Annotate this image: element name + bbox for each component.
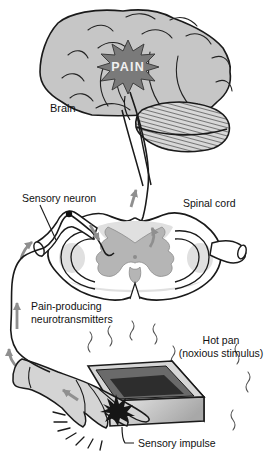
heat-wave-squiggle xyxy=(246,372,250,392)
cerebellum xyxy=(136,102,230,152)
central-canal xyxy=(133,255,137,259)
heat-wave-squiggle xyxy=(108,326,112,346)
dorsal-root-ganglion-dot xyxy=(66,211,72,217)
hot-pan-label-line1: Hot pan xyxy=(203,334,240,346)
hot-pan-label-line2: (noxious stimulus) xyxy=(179,347,264,359)
heat-wave-squiggle xyxy=(153,324,157,344)
brain-label: Brain xyxy=(50,102,76,114)
arrow-to-brain xyxy=(131,190,136,207)
sensory-neuron-label: Sensory neuron xyxy=(22,192,96,204)
spinal-cord-label: Spinal cord xyxy=(183,197,236,209)
pain-pathway-figure: PAIN Brain xyxy=(0,0,270,457)
spinal-cord-cross-section xyxy=(32,211,248,300)
neurotransmitters-label-line1: Pain-producing xyxy=(31,300,102,312)
neurotransmitters-label-line2: neurotransmitters xyxy=(31,313,113,325)
sensory-impulse-leader-line xyxy=(122,427,134,443)
heat-wave-squiggle xyxy=(231,410,235,430)
brain-illustration xyxy=(40,10,232,186)
sensory-impulse-label: Sensory impulse xyxy=(138,437,216,449)
pain-pathway-diagram: PAIN Brain xyxy=(0,0,270,457)
pain-label: PAIN xyxy=(111,60,145,74)
heat-wave-squiggle xyxy=(88,332,92,352)
heat-wave-squiggle xyxy=(130,321,134,340)
